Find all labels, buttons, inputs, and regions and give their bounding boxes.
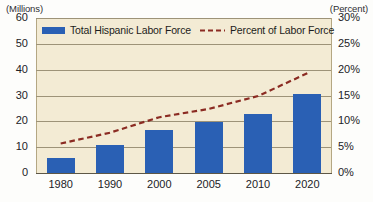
gridline: [36, 18, 332, 19]
legend-label-bars: Total Hispanic Labor Force: [70, 24, 191, 36]
y-axis-tick-label: 0: [22, 167, 28, 178]
y-axis-tick-label: 10: [16, 141, 28, 152]
bar: [293, 94, 321, 173]
bar: [47, 158, 75, 174]
x-axis-line: [36, 173, 332, 175]
x-axis-tick-label: 2010: [246, 178, 270, 190]
y2-axis-tick-label: 5%: [338, 141, 354, 152]
y-axis-tick-label: 50: [16, 38, 28, 49]
y2-axis-tick-label: 15%: [338, 90, 360, 101]
plot-area: [36, 18, 332, 173]
gridline: [36, 44, 332, 45]
x-axis-tick-label: 2000: [147, 178, 171, 190]
y2-axis-tick-label: 20%: [338, 64, 360, 75]
legend-label-line: Percent of Labor Force: [230, 24, 334, 36]
bar: [195, 122, 223, 173]
gridline: [36, 70, 332, 71]
x-axis-tick-label: 2005: [196, 178, 220, 190]
y-axis-tick-label: 60: [16, 12, 28, 23]
bar: [244, 114, 272, 173]
x-axis-tick-label: 1980: [48, 178, 72, 190]
x-axis-tick-label: 1990: [98, 178, 122, 190]
y-axis-tick-label: 40: [16, 64, 28, 75]
x-axis-tick-label: 2020: [295, 178, 319, 190]
y2-axis-tick-label: 25%: [338, 38, 360, 49]
hispanic-labor-force-chart: (Millions) (Percent) 00%105%2010%3015%40…: [0, 0, 373, 202]
bar-swatch-icon: [42, 27, 65, 34]
y2-axis-tick-label: 30%: [338, 12, 360, 23]
gridline: [36, 96, 332, 97]
y-axis-tick-label: 30: [16, 90, 28, 101]
bar: [145, 130, 173, 173]
chart-legend: Total Hispanic Labor Force Percent of La…: [42, 24, 334, 36]
dashed-line-swatch-icon: [200, 26, 225, 35]
y2-axis-tick-label: 10%: [338, 115, 360, 126]
gridline: [36, 147, 332, 148]
gridline: [36, 121, 332, 122]
bar: [96, 145, 124, 173]
y-axis-tick-label: 20: [16, 115, 28, 126]
y2-axis-tick-label: 0%: [338, 167, 354, 178]
legend-item-bars: Total Hispanic Labor Force: [42, 24, 191, 36]
legend-item-line: Percent of Labor Force: [200, 24, 334, 36]
